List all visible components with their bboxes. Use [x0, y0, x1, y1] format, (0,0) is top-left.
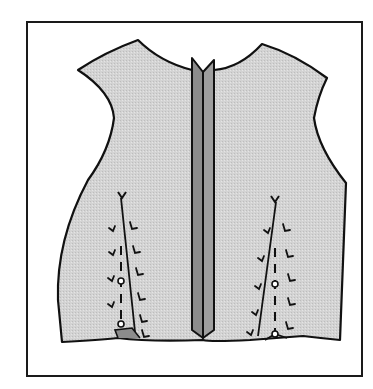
- center-pleat-band: [192, 58, 214, 338]
- band-right-strip: [203, 60, 214, 338]
- tailor-tack-circle: [118, 278, 124, 284]
- vest-diagram: [0, 0, 373, 389]
- tailor-tack-circle: [118, 321, 124, 327]
- tailor-tack-circle: [272, 281, 278, 287]
- tailor-tack-circle: [272, 331, 278, 337]
- band-left-strip: [192, 58, 203, 338]
